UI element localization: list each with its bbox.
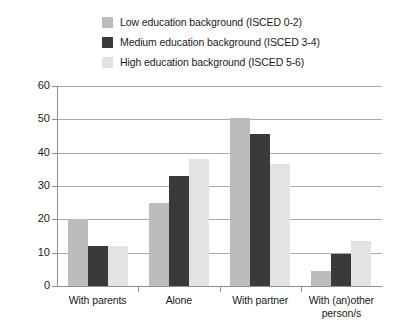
x-axis-tick [138, 286, 139, 292]
y-axis-tick-label: 20 [10, 213, 50, 224]
bar-groups [57, 86, 382, 286]
bar-group [57, 86, 138, 286]
bar [189, 159, 209, 286]
x-axis-category-label: Alone [138, 294, 219, 307]
bar [311, 271, 331, 286]
x-axis-category-label: With (an)otherperson/s [301, 294, 382, 320]
bar [351, 241, 371, 286]
legend-swatch-high [102, 57, 113, 68]
y-axis-tick-label: 40 [10, 147, 50, 158]
x-axis-category-line: With parents [57, 294, 138, 307]
legend-swatch-low [102, 17, 113, 28]
x-axis-category-line: person/s [301, 307, 382, 320]
legend-swatch-medium [102, 37, 113, 48]
bar [270, 164, 290, 286]
y-axis-tick-label: 0 [10, 280, 50, 291]
legend-item-medium: Medium education background (ISCED 3-4) [102, 32, 392, 52]
bar [68, 219, 88, 286]
chart-legend: Low education background (ISCED 0-2) Med… [102, 12, 392, 72]
legend-label-low: Low education background (ISCED 0-2) [120, 17, 302, 28]
x-axis-category-line: Alone [138, 294, 219, 307]
y-axis-labels: 0102030405060 [8, 86, 50, 286]
legend-label-high: High education background (ISCED 5-6) [120, 57, 304, 68]
bar [88, 246, 108, 286]
x-axis-tick [220, 286, 221, 292]
bar [250, 134, 270, 286]
legend-label-medium: Medium education background (ISCED 3-4) [120, 37, 320, 48]
bar-group [301, 86, 382, 286]
x-axis-category-label: With partner [220, 294, 301, 307]
y-axis-tick-label: 10 [10, 247, 50, 258]
bar-group [220, 86, 301, 286]
legend-item-high: High education background (ISCED 5-6) [102, 52, 392, 72]
plot-area [57, 86, 382, 286]
x-axis-category-line: With partner [220, 294, 301, 307]
y-axis-tick-label: 30 [10, 180, 50, 191]
bar [108, 246, 128, 286]
y-axis-tick-label: 60 [10, 80, 50, 91]
bar [149, 203, 169, 286]
x-axis-category-label: With parents [57, 294, 138, 307]
bar [169, 176, 189, 286]
x-axis-tick [301, 286, 302, 292]
x-axis-category-line: With (an)other [301, 294, 382, 307]
legend-item-low: Low education background (ISCED 0-2) [102, 12, 392, 32]
x-axis-labels: With parentsAloneWith partnerWith (an)ot… [57, 294, 382, 332]
bar-group [138, 86, 219, 286]
bar [331, 254, 351, 286]
y-axis-tick-label: 50 [10, 113, 50, 124]
bar [230, 118, 250, 286]
